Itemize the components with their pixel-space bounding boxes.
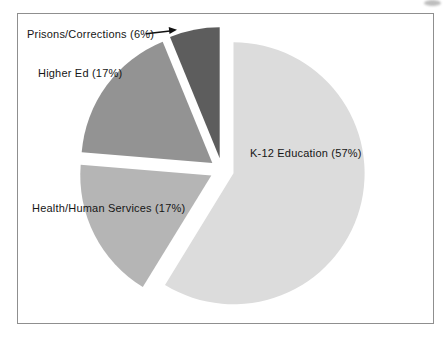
slice-label-higher-ed: Higher Ed (17%) <box>38 67 122 80</box>
pie-chart <box>0 0 447 338</box>
document-page: Prisons/Corrections (6%) Higher Ed (17%)… <box>0 0 447 338</box>
slice-label-k12-education: K-12 Education (57%) <box>250 147 362 160</box>
slice-label-prisons-corrections: Prisons/Corrections (6%) <box>27 28 154 41</box>
slice-label-health-human-services: Health/Human Services (17%) <box>32 202 185 215</box>
